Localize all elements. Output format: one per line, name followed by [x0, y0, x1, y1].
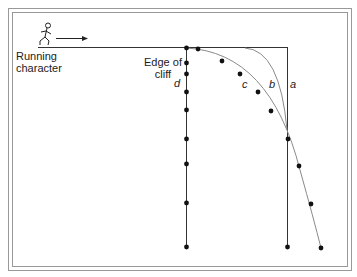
path-c-dots — [196, 47, 324, 251]
cliff-label-line2: cliff — [155, 68, 172, 80]
path-b-curve — [245, 48, 287, 130]
path-c-curve — [186, 48, 321, 248]
running-figure-icon — [40, 23, 51, 45]
character-label-line1: Running — [16, 50, 57, 62]
inner-frame — [13, 13, 348, 267]
path-d-label: d — [174, 77, 181, 89]
direction-arrow-icon — [56, 36, 88, 41]
path-b-label: b — [269, 78, 275, 90]
path-a-end-dot — [285, 245, 290, 250]
path-a-label: a — [290, 78, 296, 90]
cliff-trajectory-diagram: Running character Edge of cliff d a b c — [0, 0, 357, 277]
path-c-label: c — [242, 78, 248, 90]
cliff-label-line1: Edge of — [144, 56, 183, 68]
character-label-line2: character — [16, 62, 62, 74]
